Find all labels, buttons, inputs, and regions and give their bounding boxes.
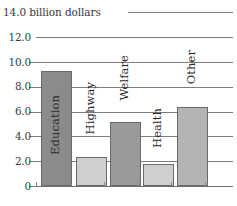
bar-highway	[76, 157, 107, 186]
y-axis-tick: 10.0	[0, 57, 31, 68]
bar-welfare	[110, 122, 141, 186]
y-axis-tick: 12.0	[0, 32, 31, 43]
bar-other	[177, 107, 208, 186]
plot-area: EducationHighwayWelfareHealthOther	[36, 0, 233, 186]
y-axis-tick: 0	[0, 181, 31, 192]
y-axis-tick: 2.0	[0, 156, 31, 167]
x-axis-separator-tick	[137, 182, 138, 186]
y-axis-tick-label: 0	[25, 181, 31, 192]
y-axis-tick-label: 4.0	[15, 131, 31, 142]
bar-label-highway: Highway	[85, 82, 97, 134]
y-axis-tick: 8.0	[0, 81, 31, 92]
x-axis-line	[36, 186, 233, 187]
bar-label-health: Health	[152, 108, 164, 148]
x-axis-separator-tick	[104, 182, 105, 186]
bar-health	[143, 164, 174, 186]
bar-label-education: Education	[50, 95, 62, 155]
y-axis-tick: 6.0	[0, 106, 31, 117]
y-axis-tick-label: 12.0	[8, 32, 31, 43]
x-axis-separator-tick	[36, 182, 37, 186]
y-axis-tick-label: 2.0	[15, 156, 31, 167]
y-axis-tick-label: 6.0	[15, 106, 31, 117]
x-axis-separator-tick	[171, 182, 172, 186]
y-axis-tick-label: 10.0	[8, 57, 31, 68]
bar-label-welfare: Welfare	[119, 55, 131, 100]
bar-label-other: Other	[186, 50, 198, 84]
y-axis-tick: 4.0	[0, 131, 31, 142]
y-axis-tick-label: 8.0	[15, 81, 31, 92]
bar-chart: 14.0 billion dollars 12.010.08.06.04.02.…	[0, 0, 237, 206]
x-axis-separator-tick	[205, 182, 206, 186]
x-axis-separator-tick	[70, 182, 71, 186]
